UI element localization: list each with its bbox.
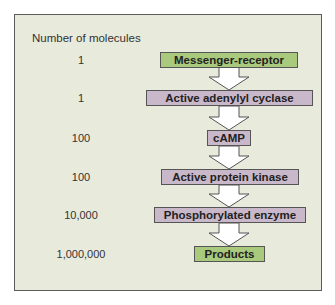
step-products: Products [194, 246, 265, 262]
step-camp: cAMP [207, 130, 251, 146]
count-3: 100 [41, 132, 121, 144]
count-5: 10,000 [41, 209, 121, 221]
down-arrow-icon [207, 106, 251, 131]
step-active-adenylyl-cyclase: Active adenylyl cyclase [146, 90, 313, 106]
count-4: 100 [41, 171, 121, 183]
count-6: 1,000,000 [41, 248, 121, 260]
down-arrow-icon [207, 185, 251, 208]
count-1: 1 [41, 54, 121, 66]
count-2: 1 [41, 92, 121, 104]
down-arrow-icon [207, 223, 251, 247]
step-messenger-receptor: Messenger-receptor [160, 52, 298, 68]
step-active-protein-kinase: Active protein kinase [161, 169, 299, 185]
down-arrow-icon [207, 67, 251, 91]
step-phosphorylated-enzyme: Phosphorylated enzyme [154, 207, 306, 223]
column-title: Number of molecules [32, 32, 141, 44]
down-arrow-icon [207, 146, 251, 170]
